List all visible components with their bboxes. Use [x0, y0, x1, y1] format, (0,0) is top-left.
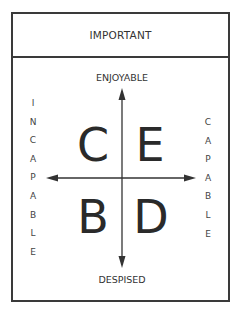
axes-arrows	[0, 0, 241, 319]
quadrant-top-right: E	[130, 122, 170, 168]
arrow-up-icon	[119, 88, 126, 100]
arrow-left-icon	[46, 175, 58, 182]
quadrant-bottom-left: B	[73, 194, 113, 240]
arrow-right-icon	[184, 175, 196, 182]
arrow-down-icon	[119, 256, 126, 268]
quadrant-bottom-right: D	[131, 194, 171, 240]
quadrant-top-left: C	[73, 122, 113, 168]
